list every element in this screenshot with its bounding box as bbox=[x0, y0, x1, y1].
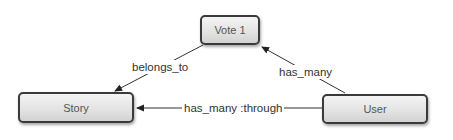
node-vote-label: Vote 1 bbox=[214, 24, 245, 36]
edge-belongs-to-label: belongs_to bbox=[130, 60, 190, 74]
edge-has-many-through-label: has_many :through bbox=[182, 101, 284, 115]
node-story[interactable]: Story bbox=[18, 92, 134, 123]
node-user[interactable]: User bbox=[322, 94, 428, 124]
edge-has-many-label: has_many bbox=[277, 65, 334, 79]
node-story-label: Story bbox=[63, 102, 89, 114]
node-vote[interactable]: Vote 1 bbox=[200, 15, 260, 45]
diagram-canvas: Vote 1 Story User belongs_to has_many ha… bbox=[0, 0, 453, 140]
node-user-label: User bbox=[363, 103, 386, 115]
